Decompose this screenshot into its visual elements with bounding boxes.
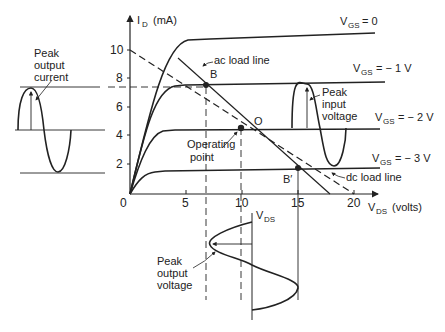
- y-tick-10: 10: [110, 43, 124, 57]
- svg-text:DS: DS: [376, 207, 387, 216]
- y-tick-4: 4: [116, 128, 123, 142]
- dc-load-line-label: dc load line: [332, 171, 402, 183]
- jfet-load-line-diagram: 2 4 6 8 10 0 5 10 15 20 I D (mA) V DS (v…: [0, 0, 445, 332]
- svg-text:voltage: voltage: [157, 279, 192, 291]
- x-tick-10: 10: [235, 196, 249, 210]
- peak-input-voltage-label: Peak input voltage: [322, 86, 357, 122]
- svg-text:DS: DS: [264, 215, 275, 224]
- point-b: [203, 82, 209, 88]
- svg-text:(volts): (volts): [392, 201, 422, 213]
- svg-text:= 0: = 0: [362, 15, 378, 27]
- label-o: O: [254, 115, 263, 127]
- curve-vgs-minus-2: [130, 129, 380, 194]
- svg-text:dc load line: dc load line: [346, 171, 402, 183]
- point-o: [238, 125, 244, 131]
- svg-text:= − 3 V: = − 3 V: [395, 152, 431, 164]
- ac-load-line-label: ac load line: [203, 54, 270, 66]
- svg-text:output: output: [34, 59, 65, 71]
- curve-label-vgs-0: V GS = 0: [340, 15, 378, 30]
- svg-text:current: current: [34, 71, 68, 83]
- output-voltage-wave: [193, 213, 298, 320]
- svg-text:V: V: [375, 111, 383, 123]
- y-tick-2: 2: [116, 157, 123, 171]
- output-current-wave: [18, 80, 71, 172]
- y-axis-title: I D (mA): [137, 14, 177, 29]
- svg-text:GS: GS: [383, 117, 395, 126]
- x-tick-0: 0: [120, 196, 127, 210]
- y-tick-6: 6: [116, 100, 123, 114]
- svg-text:voltage: voltage: [322, 110, 357, 122]
- svg-text:V: V: [372, 152, 380, 164]
- svg-text:GS: GS: [348, 21, 360, 30]
- svg-text:Operating: Operating: [187, 138, 235, 150]
- svg-text:point: point: [190, 151, 214, 163]
- svg-text:= − 1 V: = − 1 V: [376, 62, 412, 74]
- curve-vgs-minus-3: [130, 168, 380, 194]
- x-tick-5: 5: [182, 196, 189, 210]
- label-b-prime: B′: [283, 173, 292, 185]
- svg-text:V: V: [256, 209, 264, 221]
- svg-text:GS: GS: [380, 158, 392, 167]
- svg-text:input: input: [322, 98, 346, 110]
- svg-text:V: V: [368, 201, 376, 213]
- svg-text:output: output: [157, 267, 188, 279]
- point-b-prime: [295, 165, 301, 171]
- curve-label-vgs-minus-3: V GS = − 3 V: [372, 152, 431, 167]
- curve-label-vgs-minus-2: V GS = − 2 V: [375, 111, 434, 126]
- svg-text:I: I: [137, 14, 140, 26]
- svg-text:V: V: [340, 15, 348, 27]
- vds-wave-label: V DS: [256, 209, 275, 224]
- svg-text:Peak: Peak: [322, 86, 348, 98]
- svg-text:Peak: Peak: [34, 47, 60, 59]
- x-tick-20: 20: [347, 196, 361, 210]
- label-b: B: [210, 68, 217, 80]
- svg-text:V: V: [353, 62, 361, 74]
- svg-text:ac load line: ac load line: [214, 54, 270, 66]
- peak-output-current-label: Peak output current: [34, 47, 68, 83]
- svg-text:D: D: [142, 20, 148, 29]
- peak-output-voltage-label: Peak output voltage: [157, 255, 192, 291]
- svg-text:GS: GS: [361, 68, 373, 77]
- curve-label-vgs-minus-1: V GS = − 1 V: [353, 62, 412, 77]
- svg-text:(mA): (mA): [153, 14, 177, 26]
- y-tick-8: 8: [116, 71, 123, 85]
- x-axis-title: V DS (volts): [368, 201, 422, 216]
- dc-load-line: [130, 50, 354, 194]
- svg-text:= − 2 V: = − 2 V: [398, 111, 434, 123]
- svg-text:Peak: Peak: [157, 255, 183, 267]
- operating-point-label: Operating point: [187, 132, 237, 163]
